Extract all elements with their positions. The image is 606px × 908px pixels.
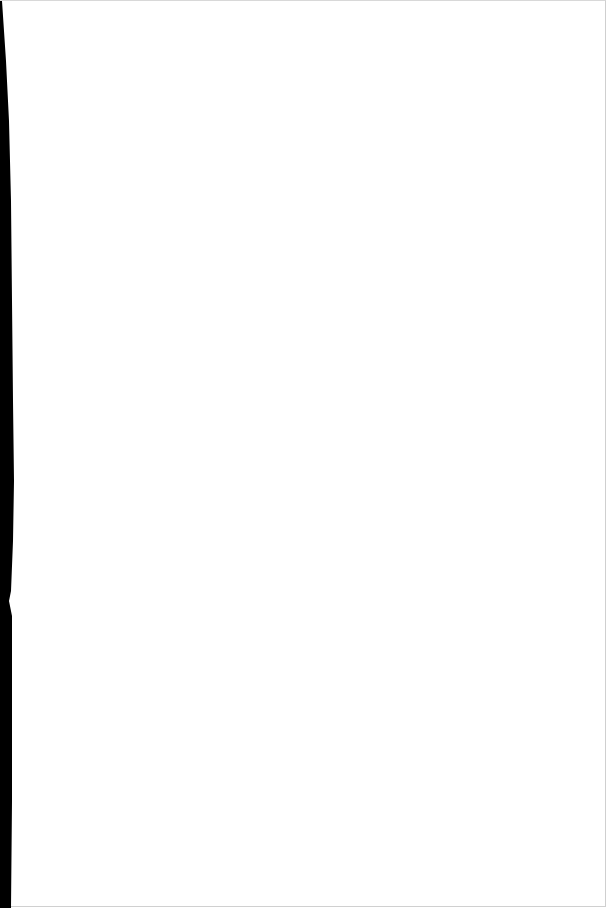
scan-shadow-edge [0, 1, 20, 908]
